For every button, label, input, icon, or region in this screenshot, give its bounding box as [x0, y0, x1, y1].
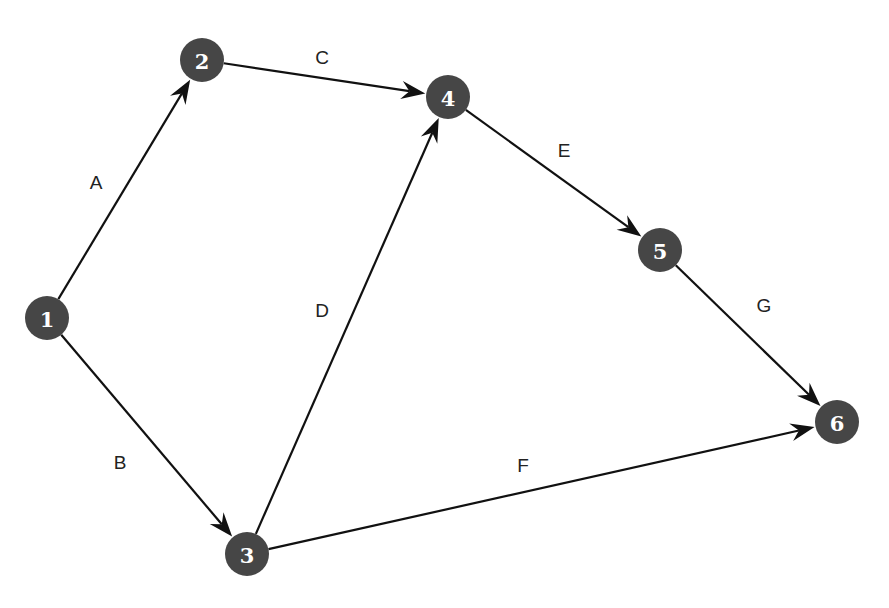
edge-f: [268, 423, 814, 549]
edge-d: [256, 118, 439, 534]
node-4: 4: [426, 75, 470, 119]
edge-e: [466, 110, 642, 237]
node-6: 6: [815, 400, 859, 444]
node-5: 5: [638, 228, 682, 272]
edges-layer: [58, 63, 820, 549]
edge-label: E: [558, 140, 571, 161]
edge-line: [58, 93, 182, 299]
node-2: 2: [180, 38, 224, 82]
edge-c: [224, 63, 426, 99]
node-label: 5: [653, 239, 668, 264]
edge-g: [676, 265, 821, 406]
node-1: 1: [25, 296, 69, 340]
network-diagram: 123456 ABCDEFG: [0, 0, 889, 608]
edge-label: F: [517, 455, 529, 476]
arrowhead-icon: [617, 215, 642, 236]
node-label: 6: [830, 411, 845, 436]
edge-line: [676, 265, 809, 394]
node-3: 3: [225, 532, 269, 576]
edge-b: [61, 335, 232, 537]
edge-label: D: [315, 300, 329, 321]
edge-line: [268, 431, 798, 550]
arrowhead-icon: [210, 512, 232, 536]
node-label: 2: [195, 49, 210, 74]
edge-line: [466, 110, 629, 227]
edge-line: [256, 133, 432, 534]
edge-line: [61, 335, 222, 524]
nodes-layer: 123456: [25, 38, 859, 576]
node-label: 3: [240, 543, 255, 568]
node-label: 1: [40, 307, 55, 332]
edge-label: A: [90, 172, 103, 193]
node-label: 4: [441, 86, 456, 111]
edge-label: G: [757, 295, 772, 316]
edge-label: C: [315, 47, 329, 68]
edge-a: [58, 80, 190, 299]
edge-label: B: [114, 452, 127, 473]
arrowhead-icon: [170, 80, 190, 105]
